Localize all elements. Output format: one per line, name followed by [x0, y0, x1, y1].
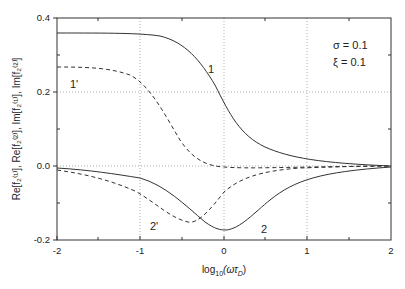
xi-parameter: ξ = 0.1	[333, 56, 366, 68]
x-tick-label: -2	[53, 245, 61, 256]
curve-2-label: 2	[261, 223, 267, 235]
y-tick-label: 0.0	[37, 160, 50, 171]
curve-1-label: 1	[208, 63, 214, 75]
y-tick-label: 0.2	[37, 86, 50, 97]
x-axis-title: log10(ωτD)	[202, 264, 246, 277]
curve-1-prime-label: 1'	[70, 78, 78, 90]
x-tick-label: 0	[221, 245, 226, 256]
x-tick-label: 2	[388, 245, 393, 256]
axis-ticks	[53, 18, 391, 240]
chart: 1 1' 2 2' σ = 0.1 ξ = 0.1 0.4 0.2 0.0 -0…	[0, 0, 405, 289]
gridlines	[57, 18, 391, 240]
curve-2-prime-label: 2'	[150, 220, 158, 232]
x-tick-label: -1	[136, 245, 144, 256]
sigma-parameter: σ = 0.1	[333, 39, 368, 51]
y-tick-label: -0.2	[34, 234, 50, 245]
y-axis-title: Re[f₂⁽¹⁾], Re[f₂⁽²⁾], Im[f₂⁽¹⁾], Im[f₂⁽²…	[11, 57, 22, 200]
x-tick-label: 1	[304, 245, 309, 256]
y-tick-label: 0.4	[37, 12, 50, 23]
